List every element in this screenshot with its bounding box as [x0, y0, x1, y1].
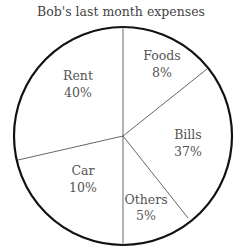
- slice-label-others: Others 5%: [124, 192, 167, 223]
- slice-value: 5%: [136, 208, 156, 223]
- slice-value: 37%: [174, 144, 202, 159]
- slice-name: Bills: [174, 127, 202, 142]
- slice-name: Others: [124, 192, 167, 207]
- slice-name: Rent: [63, 68, 93, 83]
- slice-label-rent: Rent 40%: [63, 68, 93, 100]
- slice-value: 10%: [69, 180, 97, 195]
- slice-name: Car: [72, 163, 95, 178]
- slice-value: 40%: [64, 85, 92, 100]
- divider-car-rent: [18, 136, 123, 160]
- slice-label-foods: Foods 8%: [143, 48, 180, 80]
- chart-title: Bob's last month expenses: [37, 4, 205, 19]
- pie-chart: Bob's last month expenses Foods 8% Bills…: [0, 0, 242, 251]
- slice-name: Foods: [143, 48, 180, 63]
- slice-value: 8%: [152, 65, 172, 80]
- slice-label-bills: Bills 37%: [174, 127, 202, 159]
- slice-label-car: Car 10%: [69, 163, 97, 195]
